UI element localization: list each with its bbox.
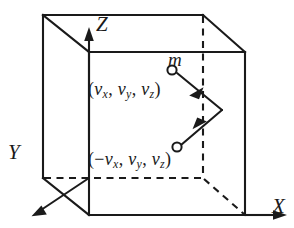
vy-subscript: y	[126, 87, 132, 101]
z-axis-arrowhead	[84, 27, 94, 41]
close-paren: )	[165, 149, 171, 169]
vy-symbol: v	[128, 149, 136, 169]
vz-symbol: v	[152, 149, 160, 169]
vx-subscript: x	[113, 157, 119, 171]
vz-subscript: z	[160, 157, 165, 171]
y-axis-label: Y	[8, 142, 20, 163]
vy-subscript: y	[137, 157, 143, 171]
velocity-after-collision-label: (−vx, vy, vz)	[88, 150, 171, 168]
figure-canvas	[0, 0, 294, 228]
mass-label: m	[168, 50, 182, 69]
vz-subscript: z	[150, 87, 155, 101]
x-axis-label: X	[272, 196, 285, 217]
cube-edge-back-bottom-right-diagonal	[204, 179, 244, 214]
coordinate-axes	[32, 27, 288, 220]
outgoing-particle-marker	[172, 142, 181, 151]
cube-edge-top-left-diagonal	[43, 15, 89, 52]
cube-hidden-edges	[44, 16, 244, 214]
vz-symbol: v	[141, 79, 149, 99]
velocity-before-collision-label: (vx, vy, vz)	[88, 80, 161, 98]
comma-2: ,	[132, 79, 137, 99]
comma-1: ,	[119, 149, 124, 169]
vy-symbol: v	[118, 79, 126, 99]
trajectory-outgoing-segment	[181, 110, 222, 145]
physics-figure-cube-velocity: Z X Y m (vx, vy, vz) (−vx, vy, vz)	[0, 0, 294, 228]
vx-subscript: x	[103, 87, 109, 101]
z-axis-label: Z	[96, 14, 108, 35]
vx-symbol: v	[94, 79, 102, 99]
minus-sign: −	[94, 149, 104, 169]
comma-2: ,	[142, 149, 147, 169]
vx-symbol: v	[105, 149, 113, 169]
close-paren: )	[155, 79, 161, 99]
trajectory-outgoing-arrowhead	[193, 117, 207, 129]
particle-trajectory	[167, 65, 222, 151]
comma-1: ,	[108, 79, 113, 99]
cube-edge-top-right-diagonal	[203, 15, 245, 52]
